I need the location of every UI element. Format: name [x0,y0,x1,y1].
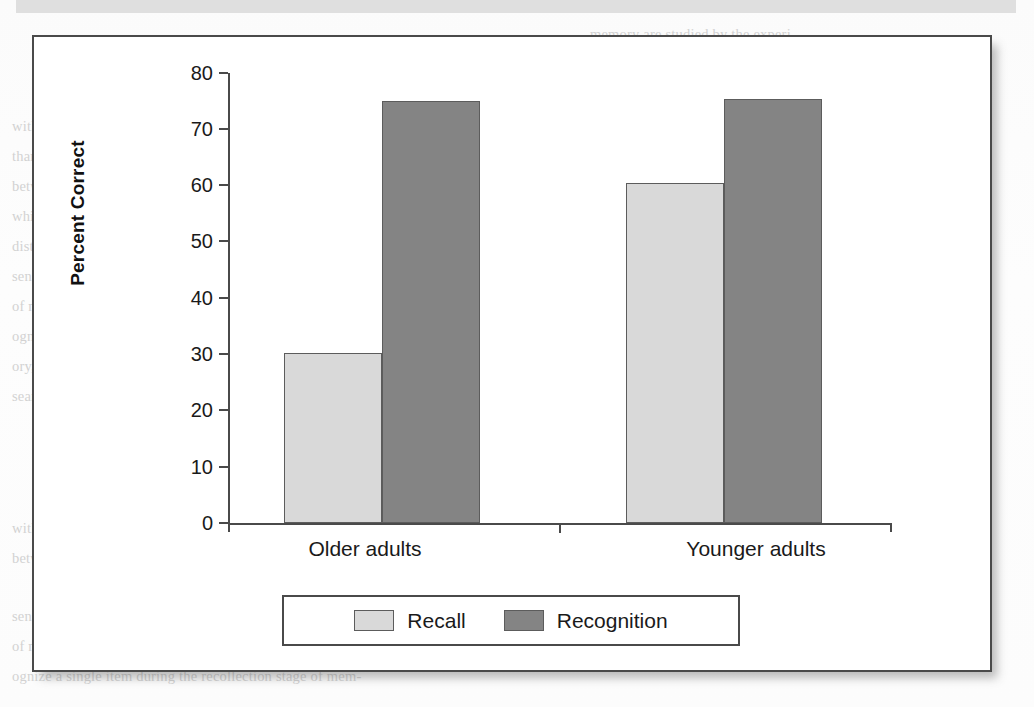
y-tick-mark [219,522,228,524]
bar-older-adults-recall[interactable] [284,353,382,523]
x-axis-end-cap [890,523,892,532]
y-tick-label: 50 [173,230,213,253]
y-tick-label: 80 [173,62,213,85]
y-tick-mark [219,409,228,411]
y-tick-label: 60 [173,174,213,197]
legend-entry-recall[interactable]: Recall [354,609,465,633]
y-tick-mark [219,353,228,355]
y-axis-line [228,73,230,523]
legend-swatch-recall-icon [354,610,394,631]
bar-older-adults-recognition[interactable] [382,101,480,523]
y-tick-label: 30 [173,343,213,366]
x-category-label-older: Older adults [308,537,421,561]
y-tick-mark [219,184,228,186]
chart-legend: Recall Recognition [282,595,740,646]
x-axis-start-cap [228,523,230,532]
y-tick-mark [219,128,228,130]
y-tick-mark [219,466,228,468]
legend-label-recognition: Recognition [557,609,668,633]
figure-card: Percent Correct 80 70 60 50 40 30 20 10 … [32,35,992,672]
x-category-label-younger: Younger adults [686,537,825,561]
scan-artifact-band [16,0,1016,13]
y-tick-label: 40 [173,287,213,310]
legend-label-recall: Recall [407,609,465,633]
y-axis-tick-labels: 80 70 60 50 40 30 20 10 0 [169,37,213,670]
legend-entry-recognition[interactable]: Recognition [504,609,668,633]
y-tick-label: 0 [173,512,213,535]
x-axis-group-separator-tick [559,523,561,533]
bar-chart: Percent Correct 80 70 60 50 40 30 20 10 … [34,37,990,670]
y-tick-label: 10 [173,456,213,479]
legend-swatch-recognition-icon [504,610,544,631]
y-tick-mark [219,240,228,242]
bar-younger-adults-recognition[interactable] [724,99,822,523]
y-tick-label: 20 [173,399,213,422]
y-tick-mark [219,297,228,299]
y-axis-title: Percent Correct [67,103,89,323]
bar-younger-adults-recall[interactable] [626,183,724,523]
y-tick-mark [219,72,228,74]
y-tick-label: 70 [173,118,213,141]
